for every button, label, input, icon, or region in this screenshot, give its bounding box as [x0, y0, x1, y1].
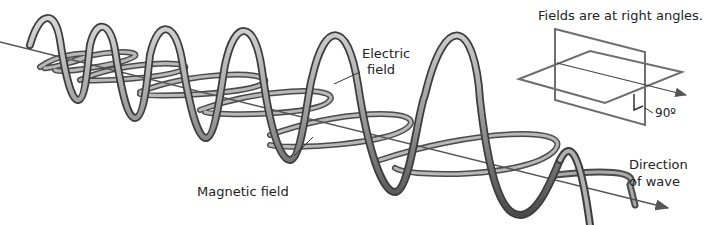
inset-caption: Fields are at right angles. [538, 8, 703, 23]
right-angle-marker [634, 94, 643, 110]
electric-field-label-line2: field [367, 62, 395, 77]
vertical-plane [555, 29, 645, 125]
magnetic-field-label: Magnetic field [197, 184, 289, 199]
direction-label-line2: of wave [629, 174, 680, 189]
wave-illustration [0, 0, 713, 225]
electric-field-label-line1: Electric [362, 46, 410, 61]
magnetic-field-ribbon [40, 52, 635, 205]
horizontal-plane [519, 51, 682, 103]
em-wave-diagram: Fields are at right angles. 90º Electric… [0, 0, 713, 225]
angle-label: 90º [655, 106, 676, 121]
direction-axis [0, 42, 668, 208]
direction-label-line1: Direction [629, 157, 688, 172]
